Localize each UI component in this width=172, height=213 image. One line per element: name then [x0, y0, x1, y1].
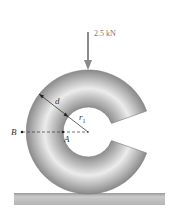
center-marker	[87, 131, 89, 133]
r1-subscript: 1	[83, 118, 86, 124]
point-a-marker	[62, 131, 65, 134]
point-a-label: A	[64, 135, 70, 144]
load-label: 2.5 kN	[94, 30, 116, 38]
curved-member-diagram	[0, 0, 172, 213]
load-arrow	[84, 32, 92, 70]
point-b-label: B	[11, 128, 17, 137]
point-b-marker	[21, 131, 24, 134]
dimension-d-label: d	[55, 97, 60, 106]
radius-r1-label: r1	[79, 113, 86, 124]
ground-support	[14, 193, 165, 205]
